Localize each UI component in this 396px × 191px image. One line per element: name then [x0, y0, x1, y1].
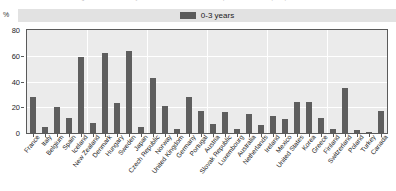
bar-fill — [342, 88, 348, 133]
legend-swatch-0-3-years — [180, 12, 196, 19]
bar-fill — [186, 97, 192, 133]
bar-fill — [162, 106, 168, 133]
bar[interactable] — [222, 30, 228, 133]
y-tick-label-80: 80 — [12, 26, 20, 35]
clipped-title: Percentage of children under 3 years enr… — [60, 0, 396, 6]
bar[interactable] — [150, 30, 156, 133]
bar-fill — [210, 124, 216, 133]
bar[interactable] — [342, 30, 348, 133]
bar-fill — [378, 111, 384, 133]
clipped-title-text: Percentage of children under 3 years enr… — [60, 0, 287, 1]
bar-fill — [90, 123, 96, 133]
y-tick-label-40: 40 — [12, 77, 20, 86]
bar[interactable] — [138, 30, 144, 133]
bar-fill — [150, 78, 156, 133]
bar[interactable] — [186, 30, 192, 133]
chart-figure: Percentage of children under 3 years enr… — [0, 0, 396, 191]
bar[interactable] — [378, 30, 384, 133]
bar-series-0-3-years — [27, 30, 387, 133]
bar[interactable] — [198, 30, 204, 133]
bar-fill — [78, 57, 84, 133]
bar-fill — [30, 97, 36, 133]
bar-fill — [138, 127, 144, 133]
y-tick-mark-60 — [21, 56, 24, 57]
y-axis: 020406080 — [0, 29, 24, 134]
y-axis-unit-label: % — [3, 11, 9, 18]
bar-fill — [270, 116, 276, 133]
bar[interactable] — [270, 30, 276, 133]
bar[interactable] — [78, 30, 84, 133]
y-tick-mark-20 — [21, 107, 24, 108]
bar[interactable] — [54, 30, 60, 133]
x-axis-labels: FranceItalyBelgiumSpainIcelandNew Zealan… — [0, 134, 396, 191]
bar-fill — [126, 51, 132, 133]
bar-fill — [306, 102, 312, 133]
bar-fill — [66, 118, 72, 133]
bar[interactable] — [318, 30, 324, 133]
bar[interactable] — [354, 30, 360, 133]
bar-fill — [282, 119, 288, 133]
bar[interactable] — [234, 30, 240, 133]
y-tick-mark-40 — [21, 82, 24, 83]
bar-fill — [318, 118, 324, 133]
bar[interactable] — [30, 30, 36, 133]
bar[interactable] — [258, 30, 264, 133]
bar-fill — [54, 107, 60, 133]
bar[interactable] — [294, 30, 300, 133]
bar[interactable] — [174, 30, 180, 133]
y-tick-label-20: 20 — [12, 103, 20, 112]
bar-fill — [294, 102, 300, 133]
bar-fill — [102, 53, 108, 133]
bar[interactable] — [42, 30, 48, 133]
bar[interactable] — [210, 30, 216, 133]
bar[interactable] — [366, 30, 372, 133]
bar[interactable] — [162, 30, 168, 133]
bar[interactable] — [126, 30, 132, 133]
bar[interactable] — [330, 30, 336, 133]
x-tick-label-france: France — [24, 134, 42, 154]
bar-fill — [222, 112, 228, 133]
bar[interactable] — [90, 30, 96, 133]
bar-fill — [198, 111, 204, 133]
bar[interactable] — [246, 30, 252, 133]
bar[interactable] — [306, 30, 312, 133]
legend-label-0-3-years: 0-3 years — [201, 12, 234, 20]
bar-fill — [246, 114, 252, 133]
bar[interactable] — [102, 30, 108, 133]
bar[interactable] — [114, 30, 120, 133]
chart-legend: 0-3 years — [18, 9, 396, 22]
bar-fill — [42, 127, 48, 133]
y-tick-label-60: 60 — [12, 51, 20, 60]
bar-fill — [114, 103, 120, 133]
bar[interactable] — [66, 30, 72, 133]
bar[interactable] — [282, 30, 288, 133]
